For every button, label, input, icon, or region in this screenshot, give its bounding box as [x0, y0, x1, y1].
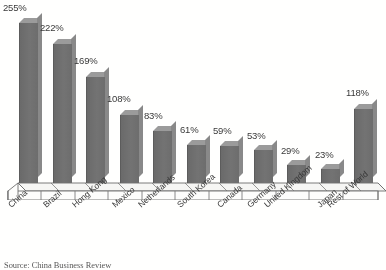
bars-container: 255% 222% 169% 108% 83% [0, 0, 386, 200]
bar-japan [321, 169, 339, 183]
bar-front-face [220, 146, 239, 183]
bar-value-label: 53% [247, 130, 265, 141]
bar-germany [254, 150, 272, 183]
bar-value-label: 61% [180, 124, 198, 135]
bar-mexico [120, 115, 138, 183]
chart-page: 255% 222% 169% 108% 83% [0, 0, 386, 270]
bar-value-label: 29% [281, 145, 299, 156]
bar-brazil [53, 44, 71, 183]
bar-value-label: 169% [74, 55, 98, 66]
bar-value-label: 83% [144, 110, 162, 121]
bar-canada [220, 146, 238, 183]
bar-china [19, 23, 37, 183]
bar-front-face [321, 169, 340, 183]
source-caption: Source: China Business Review [4, 261, 111, 270]
bar-front-face [53, 44, 72, 183]
bar-value-label: 108% [107, 93, 131, 104]
bar-value-label: 23% [315, 149, 333, 160]
bar-value-label: 255% [3, 2, 27, 13]
bar-value-label: 222% [40, 22, 64, 33]
bar-value-label: 118% [346, 87, 369, 98]
bar-front-face [120, 115, 139, 183]
bar-front-face [254, 150, 273, 183]
x-axis-labels: China Brazil Hong Kong Mexico Netherland… [0, 196, 386, 258]
bar-hong-kong [86, 77, 104, 183]
bar-value-label: 59% [213, 125, 231, 136]
bar-front-face [19, 23, 38, 183]
bar-front-face [86, 77, 105, 183]
